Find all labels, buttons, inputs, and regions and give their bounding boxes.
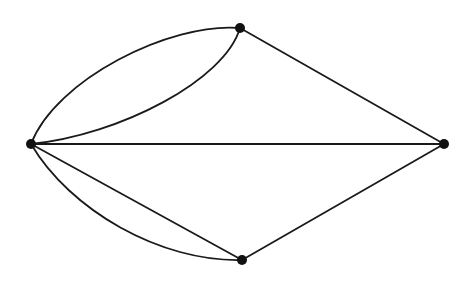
node-top <box>235 23 245 33</box>
edges-group <box>31 28 444 260</box>
edge-left-bottom-straight <box>31 144 242 260</box>
graph-diagram <box>0 0 472 292</box>
edge-top-right <box>240 28 444 144</box>
edge-bottom-right <box>242 144 444 260</box>
node-bottom <box>237 255 247 265</box>
node-right <box>439 139 449 149</box>
edge-left-top-outer <box>31 28 240 144</box>
edge-left-top-inner <box>31 28 240 144</box>
node-left <box>26 139 36 149</box>
